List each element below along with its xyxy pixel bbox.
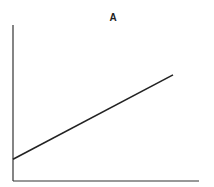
chart-plot <box>0 0 214 187</box>
chart: A <box>0 0 214 187</box>
series-line-a <box>13 75 173 159</box>
